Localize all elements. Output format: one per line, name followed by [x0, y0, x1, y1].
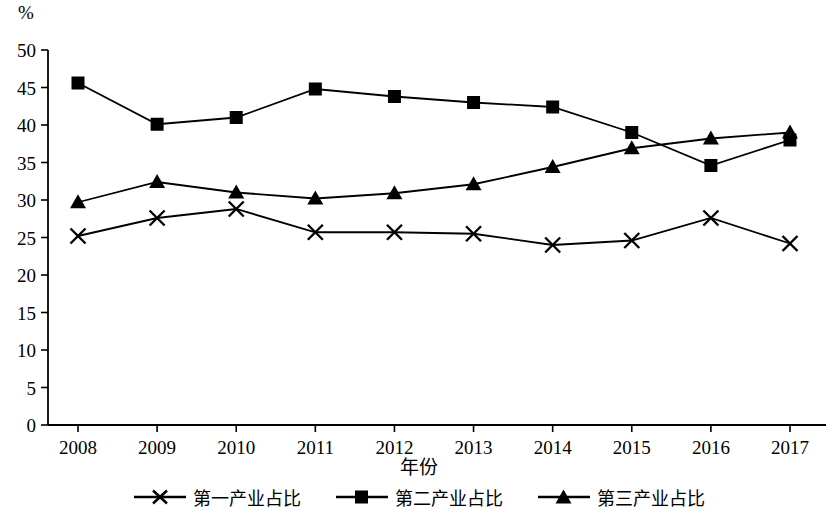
- chart-legend: 第一产业占比 第二产业占比 第三产业占比: [0, 484, 837, 510]
- legend-item-secondary[interactable]: 第二产业占比: [335, 484, 503, 510]
- y-axis-tick-label: 0: [27, 415, 37, 436]
- y-axis-tick-label: 40: [17, 115, 36, 136]
- y-axis-tick-label: 30: [17, 190, 36, 211]
- y-axis-tick-label: 10: [17, 340, 36, 361]
- legend-label-tertiary: 第三产业占比: [597, 484, 705, 510]
- legend-label-secondary: 第二产业占比: [395, 484, 503, 510]
- y-axis-unit-label: %: [18, 2, 34, 24]
- line-chart: % 05101520253035404550200820092010201120…: [0, 0, 837, 510]
- x-axis-title: 年份: [0, 452, 837, 479]
- plot-area: 0510152025303540455020082009201020112012…: [0, 0, 837, 470]
- y-axis-tick-label: 20: [17, 265, 36, 286]
- data-point-square: [704, 159, 717, 172]
- y-axis-tick-label: 25: [17, 228, 36, 249]
- data-point-square: [309, 83, 322, 96]
- data-point-square: [467, 96, 480, 109]
- series-2: [72, 77, 797, 173]
- data-point-square: [625, 126, 638, 139]
- triangle-marker-icon: [537, 487, 591, 507]
- legend-label-primary: 第一产业占比: [193, 484, 301, 510]
- y-axis-tick-label: 15: [17, 303, 36, 324]
- y-axis-tick-label: 50: [17, 40, 36, 61]
- series-line: [78, 209, 790, 245]
- series-line: [78, 133, 790, 203]
- series-1: [71, 202, 798, 253]
- data-point-square: [230, 111, 243, 124]
- series-3: [70, 125, 798, 209]
- legend-item-tertiary[interactable]: 第三产业占比: [537, 484, 705, 510]
- y-axis-tick-label: 35: [17, 153, 36, 174]
- data-point-square: [151, 118, 164, 131]
- square-marker-icon: [335, 487, 389, 507]
- data-point-triangle: [149, 174, 165, 188]
- data-point-triangle: [782, 125, 798, 139]
- legend-item-primary[interactable]: 第一产业占比: [133, 484, 301, 510]
- y-axis-tick-label: 5: [27, 378, 37, 399]
- data-point-square: [546, 101, 559, 114]
- data-point-square: [388, 90, 401, 103]
- y-axis-tick-label: 45: [17, 78, 36, 99]
- series-line: [78, 83, 790, 166]
- x-marker-icon: [133, 487, 187, 507]
- data-point-square: [72, 77, 85, 90]
